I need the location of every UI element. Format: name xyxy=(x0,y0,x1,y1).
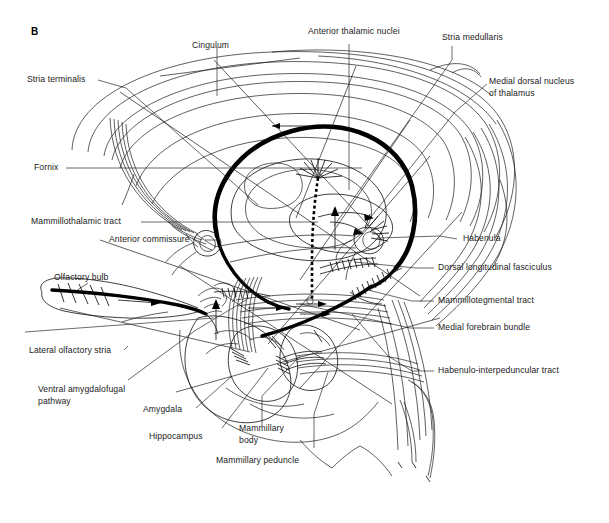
olfactory-bulb-and-tract xyxy=(41,278,218,334)
label-mammillary-peduncle: Mammillary peduncle xyxy=(216,455,299,465)
label-amygdala: Amygdala xyxy=(143,404,182,414)
label-mammillothalamic-tract: Mammillothalamic tract xyxy=(31,216,121,226)
label-dorsal-longitudinal-fasciculus: Dorsal longitudinal fasciculus xyxy=(438,262,552,272)
label-medial-dorsal-nucleus-line1: Medial dorsal nucleus xyxy=(489,76,574,86)
label-fornix: Fornix xyxy=(34,162,58,172)
label-lateral-olfactory-stria: Lateral olfactory stria xyxy=(29,345,111,355)
fornix-fibre-bundle xyxy=(110,118,206,244)
construction-guide-lines xyxy=(60,58,462,404)
label-cingulum: Cingulum xyxy=(192,40,229,50)
label-stria-terminalis: Stria terminalis xyxy=(27,74,85,84)
fibre-node xyxy=(307,298,313,304)
label-mammillary-body-line2: body xyxy=(239,435,258,445)
label-ventral-amygdalofugal-line1: Ventral amygdalofugal xyxy=(38,384,125,394)
panel-letter: B xyxy=(31,26,38,37)
label-medial-dorsal-nucleus-line2: of thalamus xyxy=(489,88,535,98)
label-olfactory-bulb: Olfactory bulb xyxy=(54,272,108,282)
label-habenulo-interpeduncular-tract: Habenulo-interpeduncular tract xyxy=(438,365,559,375)
label-mammillotegmental-tract: Mammillotegmental tract xyxy=(438,295,534,305)
label-medial-forebrain-bundle: Medial forebrain bundle xyxy=(438,322,530,332)
label-stria-medullaris: Stria medullaris xyxy=(442,32,503,42)
label-anterior-thalamic-nuclei: Anterior thalamic nuclei xyxy=(308,26,400,36)
temporal-bundle-arcs xyxy=(282,351,424,382)
fornix-tail xyxy=(122,174,134,205)
label-anterior-commissure: Anterior commissure xyxy=(109,234,190,244)
mammillotegmental-heavy-tract xyxy=(262,268,402,336)
label-mammillary-body-line1: Mammillary xyxy=(239,423,284,433)
label-habenula: Habenula xyxy=(463,233,501,243)
figure-panel-b: B Cingulum Anterior thalamic nuclei Stri… xyxy=(0,0,609,523)
arrow-stria-medullaris-rightward xyxy=(318,213,374,222)
label-ventral-amygdalofugal-line2: pathway xyxy=(38,396,71,406)
label-hippocampus: Hippocampus xyxy=(149,431,203,441)
